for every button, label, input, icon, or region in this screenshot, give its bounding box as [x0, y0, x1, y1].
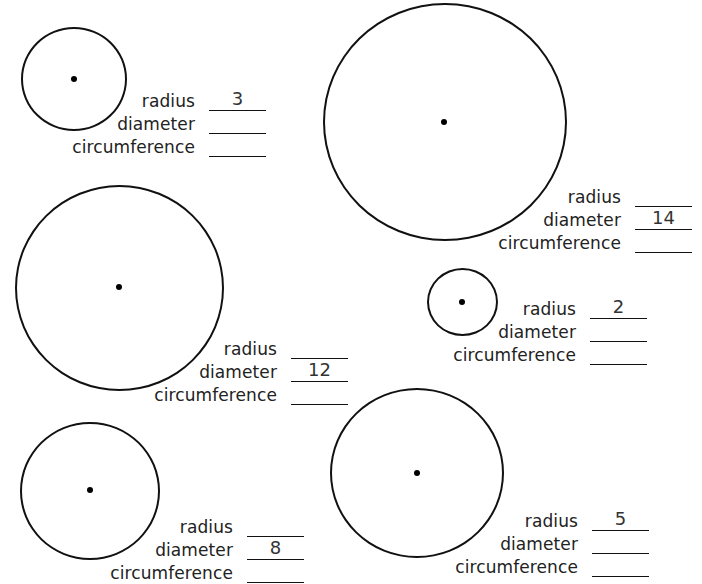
circumference-label: circumference	[498, 233, 621, 253]
radius-blank-1[interactable]: 3	[209, 89, 266, 111]
circumference-label: circumference	[72, 137, 195, 157]
radius-row-6: radius 5	[525, 508, 649, 531]
radius-label: radius	[224, 339, 277, 359]
circumference-row-5: circumference	[110, 560, 304, 583]
radius-label: radius	[180, 517, 233, 537]
circumference-row-6: circumference	[455, 554, 649, 577]
circumference-row-2: circumference	[498, 230, 692, 253]
diameter-blank-4[interactable]	[590, 320, 647, 342]
diameter-blank-5[interactable]: 8	[247, 538, 304, 560]
diameter-row-4: diameter	[498, 319, 647, 342]
circumference-row-4: circumference	[453, 342, 647, 365]
radius-row-1: radius 3	[142, 88, 266, 111]
problem-6-fields: radius 5 diameter circumference	[420, 508, 649, 578]
circumference-blank-1[interactable]	[209, 135, 266, 157]
radius-blank-5[interactable]	[247, 515, 304, 537]
diameter-row-6: diameter	[500, 531, 649, 554]
radius-row-2: radius	[568, 184, 692, 207]
circumference-label: circumference	[154, 385, 277, 405]
diameter-blank-3[interactable]: 12	[291, 360, 348, 382]
center-point-6	[414, 470, 420, 476]
problem-3-fields: radius diameter 12 circumference	[130, 336, 348, 406]
radius-label: radius	[523, 299, 576, 319]
circumference-blank-6[interactable]	[592, 555, 649, 577]
diameter-row-3: diameter 12	[199, 359, 348, 382]
circumference-blank-4[interactable]	[590, 343, 647, 365]
problem-1-fields: radius 3 diameter circumference	[100, 88, 266, 158]
diameter-label: diameter	[500, 534, 578, 554]
circumference-label: circumference	[453, 345, 576, 365]
radius-row-3: radius	[224, 336, 348, 359]
circumference-label: circumference	[455, 557, 578, 577]
diameter-blank-1[interactable]	[209, 112, 266, 134]
diameter-row-5: diameter 8	[155, 537, 304, 560]
radius-label: radius	[525, 511, 578, 531]
diameter-label: diameter	[199, 362, 277, 382]
circumference-blank-5[interactable]	[247, 561, 304, 583]
diameter-label: diameter	[543, 210, 621, 230]
diameter-label: diameter	[155, 540, 233, 560]
circumference-label: circumference	[110, 563, 233, 583]
diameter-blank-2[interactable]: 14	[635, 208, 692, 230]
problem-4-fields: radius 2 diameter circumference	[430, 296, 647, 366]
circumference-row-3: circumference	[154, 382, 348, 405]
radius-blank-6[interactable]: 5	[592, 509, 649, 531]
radius-blank-4[interactable]: 2	[590, 297, 647, 319]
diameter-label: diameter	[117, 114, 195, 134]
radius-row-4: radius 2	[523, 296, 647, 319]
radius-label: radius	[568, 187, 621, 207]
problem-2-fields: radius diameter 14 circumference	[470, 184, 692, 254]
radius-label: radius	[142, 91, 195, 111]
diameter-blank-6[interactable]	[592, 532, 649, 554]
diameter-row-2: diameter 14	[543, 207, 692, 230]
center-point-2	[441, 119, 447, 125]
center-point-5	[87, 487, 93, 493]
circumference-row-1: circumference	[72, 134, 266, 157]
radius-blank-2[interactable]	[635, 185, 692, 207]
problem-5-fields: radius diameter 8 circumference	[100, 514, 304, 584]
radius-row-5: radius	[180, 514, 304, 537]
circumference-blank-3[interactable]	[291, 383, 348, 405]
radius-blank-3[interactable]	[291, 337, 348, 359]
center-point-3	[116, 284, 122, 290]
circumference-blank-2[interactable]	[635, 231, 692, 253]
diameter-label: diameter	[498, 322, 576, 342]
center-point-1	[71, 76, 77, 82]
diameter-row-1: diameter	[117, 111, 266, 134]
